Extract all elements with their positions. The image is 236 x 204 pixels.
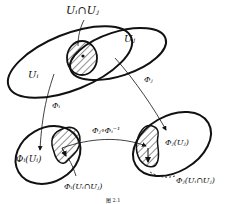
image-phi-j-intersection [136, 126, 158, 167]
manifold-chart-diagram: Uᵢ∩Uⱼ Uⱼ Uᵢ Φⱼ Φᵢ Φⱼ∘Φᵢ⁻¹ Φᵢ(Uᵢ) Φⱼ(Uⱼ) … [0, 0, 236, 204]
phi-j-inter-label: Φⱼ(Uᵢ∩Uⱼ) [176, 176, 215, 185]
figure-caption: 图 2.1 [106, 197, 121, 204]
phi-i-label: Φᵢ [52, 101, 61, 110]
set-uj-label: Uⱼ [124, 33, 135, 44]
intersection-region [67, 41, 97, 75]
phi-j-label: Φⱼ [144, 75, 154, 84]
intersection-label: Uᵢ∩Uⱼ [66, 4, 99, 17]
transition-label: Φⱼ∘Φᵢ⁻¹ [92, 126, 120, 135]
point-marker [81, 54, 84, 57]
phi-j-uj-label: Φⱼ(Uⱼ) [165, 138, 189, 147]
image-phi-i-intersection [52, 127, 80, 163]
phi-i-ui-label: Φᵢ(Uᵢ) [16, 154, 42, 164]
set-ui-label: Uᵢ [28, 69, 38, 80]
phi-i-inter-label: Φᵢ(Uᵢ∩Uⱼ) [64, 182, 102, 191]
